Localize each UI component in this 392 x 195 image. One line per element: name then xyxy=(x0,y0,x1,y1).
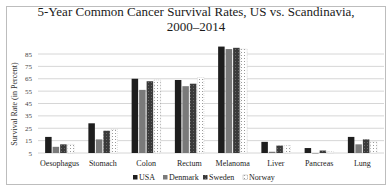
bar-usa-liver xyxy=(261,142,268,153)
bar-sweden-lung xyxy=(363,139,370,153)
bar-denmark-melanoma xyxy=(226,49,233,153)
y-tick-label: 65 xyxy=(25,75,33,83)
legend-swatch-sweden xyxy=(203,175,208,180)
category-label: Pancreas xyxy=(305,159,333,168)
bar-sweden-liver xyxy=(276,146,283,153)
bar-sweden-melanoma xyxy=(233,48,240,153)
bar-denmark-colon xyxy=(139,90,146,153)
bar-usa-melanoma xyxy=(218,47,225,153)
category-labels: OesophagusStomachColonRectumMelanomaLive… xyxy=(40,159,371,168)
bar-norway-stomach xyxy=(111,129,118,153)
y-tick-label: 55 xyxy=(25,88,33,96)
bar-denmark-pancreas xyxy=(312,153,319,154)
category-label: Melanoma xyxy=(216,159,251,168)
legend-label-denmark: Denmark xyxy=(169,173,199,182)
bar-norway-rectum xyxy=(197,78,204,153)
bar-norway-colon xyxy=(154,80,161,153)
category-label: Liver xyxy=(267,159,285,168)
bar-chart: 51525354555657585 Survival Rate (in Perc… xyxy=(0,0,392,195)
legend-label-norway: Norway xyxy=(249,173,275,182)
y-tick-label: 75 xyxy=(25,63,33,71)
bar-usa-lung xyxy=(348,137,355,153)
y-tick-label: 25 xyxy=(25,125,33,133)
y-tick-label: 5 xyxy=(29,150,33,158)
y-tick-label: 85 xyxy=(25,51,33,59)
bar-denmark-rectum xyxy=(182,86,189,153)
bar-usa-pancreas xyxy=(305,148,312,153)
bar-norway-liver xyxy=(284,146,291,153)
category-label: Colon xyxy=(136,159,156,168)
bar-usa-stomach xyxy=(88,123,95,153)
legend-swatch-usa xyxy=(133,175,138,180)
bar-sweden-oesophagus xyxy=(60,144,67,153)
bar-sweden-stomach xyxy=(103,131,110,153)
bar-usa-colon xyxy=(132,79,139,153)
category-label: Oesophagus xyxy=(40,159,79,168)
y-axis-label: Survival Rate (in Percent) xyxy=(10,62,19,146)
bar-usa-oesophagus xyxy=(45,137,52,153)
bars xyxy=(45,47,377,154)
category-label: Stomach xyxy=(89,159,117,168)
y-tick-labels: 51525354555657585 xyxy=(25,51,33,158)
legend-label-usa: USA xyxy=(139,173,155,182)
y-tick-label: 15 xyxy=(25,137,33,145)
bar-norway-lung xyxy=(370,142,377,153)
category-label: Rectum xyxy=(177,159,203,168)
y-tick-label: 35 xyxy=(25,112,33,120)
bar-sweden-pancreas xyxy=(320,151,327,153)
y-tick-label: 45 xyxy=(25,100,33,108)
bar-norway-oesophagus xyxy=(68,144,75,153)
legend-label-sweden: Sweden xyxy=(209,173,234,182)
bar-sweden-colon xyxy=(147,81,154,153)
bar-denmark-liver xyxy=(269,152,276,153)
bar-norway-pancreas xyxy=(327,152,334,153)
legend-swatch-norway xyxy=(243,175,248,180)
bar-sweden-rectum xyxy=(190,84,197,153)
category-label: Lung xyxy=(354,159,371,168)
bar-usa-rectum xyxy=(175,80,182,153)
legend: USADenmarkSwedenNorway xyxy=(133,173,275,182)
bar-denmark-lung xyxy=(355,144,362,153)
legend-swatch-denmark xyxy=(163,175,168,180)
bar-denmark-stomach xyxy=(96,139,103,153)
bar-denmark-oesophagus xyxy=(53,147,60,153)
bar-norway-melanoma xyxy=(241,49,248,153)
